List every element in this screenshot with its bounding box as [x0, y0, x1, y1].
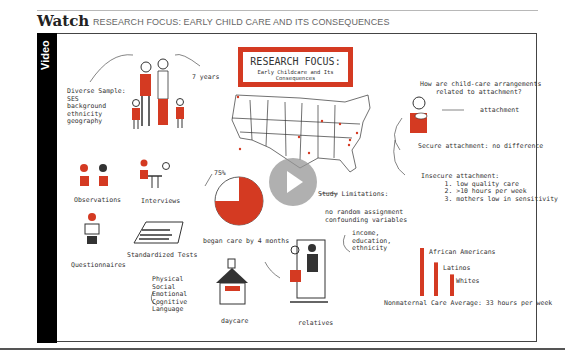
confounds-text: income, education, ethnicity: [352, 230, 391, 253]
group-label-whites: Whites: [456, 278, 479, 286]
development-domains: Physical Social Emotional Cognitive Lang…: [152, 276, 187, 314]
questionnaires-label: Questionnaires: [71, 262, 126, 270]
observations-icon: [80, 164, 108, 186]
group-label-latinos: Latinos: [443, 265, 470, 273]
insecure-attachment-text: Insecure attachment: 1. low quality care…: [421, 173, 558, 203]
group-label-african-americans: African Americans: [429, 249, 496, 257]
bar-0: [420, 248, 424, 296]
interviews-icon: [140, 160, 170, 189]
limitations-detail: no random assignment confounding variabl…: [325, 209, 407, 224]
observations-label: Observations: [74, 197, 121, 205]
began-care-text: began care by 4 months: [203, 238, 289, 246]
title-main: RESEARCH FOCUS:: [243, 56, 348, 67]
daycare-icon: [216, 259, 248, 304]
play-button[interactable]: [269, 158, 317, 206]
secure-attachment-text: Secure attachment: no difference: [418, 143, 543, 151]
bar-2: [450, 274, 454, 296]
relatives-icon: [290, 240, 328, 302]
care-average-text: Nonmaternal Care Average: 33 hours per w…: [384, 300, 552, 308]
research-focus-title: RESEARCH FOCUS: Early Childcare and Its …: [238, 47, 353, 87]
pie-chart: [215, 177, 263, 225]
mother-baby-icon: [410, 97, 427, 133]
diverse-sample-text: Diverse Sample: SES background ethnicity…: [67, 88, 126, 126]
attachment-label: attachment: [480, 107, 519, 115]
standardized-tests-icon: [134, 222, 183, 243]
bar-1: [434, 262, 438, 296]
years-text: 7 years: [192, 74, 219, 82]
standardized-tests-label: Standardized Tests: [127, 252, 197, 260]
study-limitations-label: Study Limitations:: [318, 191, 388, 199]
questionnaires-icon: [85, 213, 99, 244]
pie-percent-label: 75%: [214, 170, 226, 178]
attachment-question: How are child-care arrangements related …: [420, 81, 541, 96]
daycare-label: daycare: [221, 318, 248, 326]
footer-rule: [0, 348, 565, 350]
title-sub: Early Childcare and Its Consequences: [243, 69, 348, 81]
relatives-label: relatives: [298, 320, 333, 328]
interviews-label: Interviews: [141, 198, 180, 206]
